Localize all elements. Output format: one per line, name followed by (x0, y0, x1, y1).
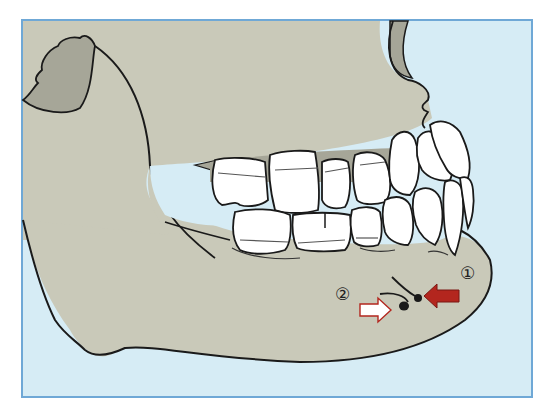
jaw-diagram: ① ② (0, 0, 549, 407)
upper-premolar-1 (322, 159, 350, 208)
foramen-dot-upper (414, 294, 422, 302)
label-2: ② (335, 284, 350, 304)
lower-molar-2 (292, 213, 350, 252)
lower-molar-1 (233, 209, 291, 253)
upper-premolar-2 (353, 152, 390, 204)
foramen-dot-lower (399, 302, 409, 311)
upper-canine (389, 132, 419, 195)
lower-premolar-1 (351, 207, 382, 246)
label-1: ① (460, 263, 475, 283)
upper-molar-1 (212, 158, 268, 206)
upper-molar-2 (269, 151, 319, 213)
